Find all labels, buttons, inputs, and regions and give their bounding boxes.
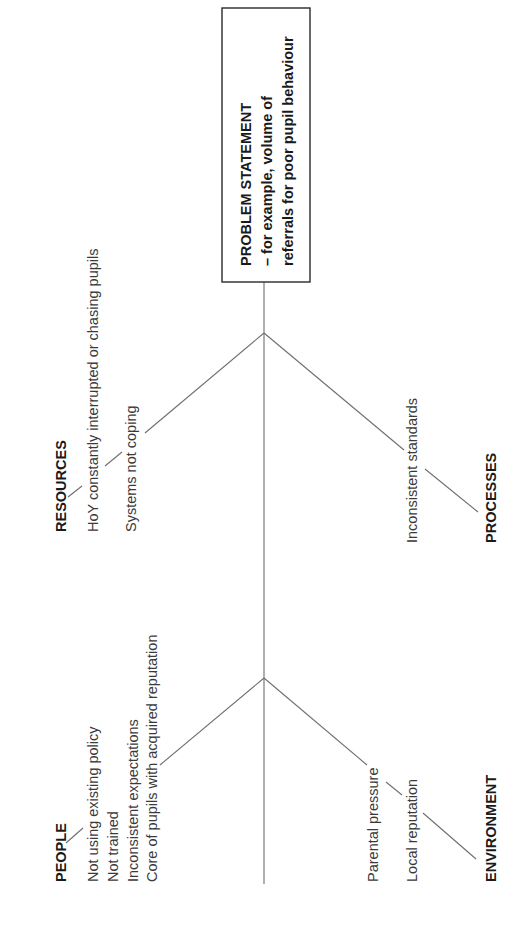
processes-branch-line xyxy=(264,333,404,450)
environment-title: ENVIRONMENT xyxy=(483,775,499,882)
people-item-4: Core of pupils with acquired reputation xyxy=(144,635,160,882)
processes-title: PROCESSES xyxy=(483,452,499,543)
environment-connector-2 xyxy=(423,813,476,859)
problem-statement-line3: referrals for poor pupil behaviour xyxy=(280,36,296,266)
processes-item-1: Inconsistent standards xyxy=(404,398,420,543)
people-branch-line xyxy=(160,678,264,765)
environment-item-1: Parental pressure xyxy=(365,768,381,882)
problem-statement-title: PROBLEM STATEMENT xyxy=(238,103,254,266)
people-item-2: Not trained xyxy=(105,811,121,882)
resources-connector-2 xyxy=(105,452,122,466)
problem-statement-line2: – for example, volume of xyxy=(259,96,275,266)
resources-connector-1 xyxy=(68,486,82,497)
people-item-1: Not using existing policy xyxy=(85,726,101,882)
resources-title: RESOURCES xyxy=(53,440,69,532)
environment-item-2: Local reputation xyxy=(404,779,420,882)
resources-branch-line xyxy=(145,333,264,433)
fishbone-diagram: PROBLEM STATEMENT – for example, volume … xyxy=(0,0,531,945)
environment-branch-line xyxy=(264,678,367,765)
people-item-3: Inconsistent expectations xyxy=(125,719,141,882)
environment-connector-1 xyxy=(386,782,402,795)
resources-item-1: HoY constantly interrupted or chasing pu… xyxy=(85,249,101,532)
processes-connector xyxy=(425,469,478,512)
resources-item-2: Systems not coping xyxy=(123,405,139,532)
people-title: PEOPLE xyxy=(53,823,69,882)
